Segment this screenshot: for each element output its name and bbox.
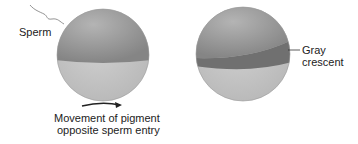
label-movement-1: Movement of pigment <box>54 112 160 124</box>
sperm-tail <box>30 5 64 24</box>
egg-after <box>194 6 292 104</box>
label-gray-2: crescent <box>302 56 344 68</box>
label-gray-1: Gray <box>302 44 326 56</box>
egg-before <box>55 8 151 104</box>
rotation-arrow <box>82 103 120 106</box>
label-movement-2: opposite sperm entry <box>57 124 160 136</box>
label-sperm: Sperm <box>19 26 51 38</box>
